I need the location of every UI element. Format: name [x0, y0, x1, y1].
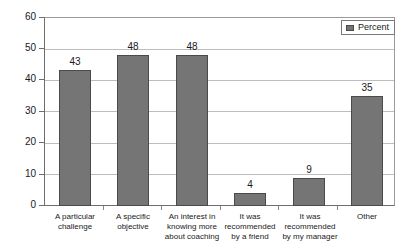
bar-value-recommended-by-my-manager: 9: [289, 165, 329, 175]
bar-value-recommended-by-a-friend: 4: [230, 180, 270, 190]
category-label-a-particular-challenge: A particular challenge: [45, 212, 105, 232]
gridline-20: [45, 143, 394, 144]
y-tick-label-50: 50: [6, 43, 36, 53]
plot-area: [44, 17, 395, 206]
legend-swatch-percent: [346, 25, 354, 31]
y-tick-mark-60: [39, 17, 44, 18]
y-tick-label-60: 60: [6, 12, 36, 22]
y-tick-label-20: 20: [6, 137, 36, 147]
y-tick-mark-20: [39, 142, 44, 143]
x-tick-mark-4: [278, 206, 279, 210]
bar-chart: 60 50 40 30 20 10 0 43 48 48 4 9 35 A pa…: [0, 0, 418, 252]
y-tick-mark-50: [39, 48, 44, 49]
legend-label-percent: Percent: [358, 23, 389, 32]
y-tick-label-10: 10: [6, 169, 36, 179]
gridline-10: [45, 174, 394, 175]
bar-recommended-by-a-friend: [234, 193, 266, 206]
x-tick-mark-3: [220, 206, 221, 210]
x-tick-mark-2: [161, 206, 162, 210]
y-tick-mark-30: [39, 111, 44, 112]
bar-recommended-by-my-manager: [293, 178, 325, 206]
bar-value-other: 35: [347, 83, 387, 93]
y-tick-mark-40: [39, 79, 44, 80]
bar-value-an-interest-in-coaching: 48: [172, 42, 212, 52]
bar-a-particular-challenge: [59, 70, 91, 206]
x-tick-mark-5: [337, 206, 338, 210]
category-label-recommended-by-a-friend: It was recommended by a friend: [219, 212, 281, 242]
y-tick-mark-10: [39, 174, 44, 175]
category-label-recommended-by-my-manager: It was recommended by my manager: [275, 212, 345, 242]
y-tick-label-0: 0: [6, 200, 36, 210]
bar-value-a-specific-objective: 48: [113, 42, 153, 52]
category-label-a-specific-objective: A specific objective: [105, 212, 161, 232]
gridline-40: [45, 80, 394, 81]
y-tick-label-30: 30: [6, 106, 36, 116]
bar-an-interest-in-coaching: [176, 55, 208, 206]
legend: Percent: [341, 20, 395, 35]
bar-a-specific-objective: [117, 55, 149, 206]
category-label-an-interest-in-coaching: An interest in knowing more about coachi…: [159, 212, 225, 242]
y-tick-mark-0: [39, 205, 44, 206]
y-tick-label-40: 40: [6, 74, 36, 84]
category-label-other: Other: [341, 212, 393, 222]
bar-other: [351, 96, 383, 206]
x-tick-mark-1: [103, 206, 104, 210]
gridline-30: [45, 111, 394, 112]
bar-value-a-particular-challenge: 43: [55, 57, 95, 67]
gridline-50: [45, 49, 394, 50]
